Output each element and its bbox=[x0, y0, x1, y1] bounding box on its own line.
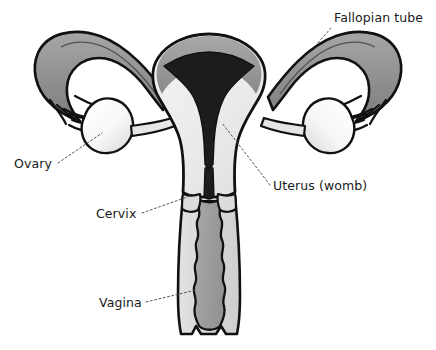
cervical-canal bbox=[204, 168, 214, 199]
ovary-right-body bbox=[303, 98, 354, 153]
ovarian-ligament-right-body bbox=[261, 118, 305, 136]
label-cervix: Cervix bbox=[96, 206, 136, 221]
label-vagina: Vagina bbox=[99, 295, 142, 310]
label-ovary: Ovary bbox=[14, 156, 52, 171]
ovarian-ligament-left-body bbox=[131, 118, 175, 136]
label-uterus-womb: Uterus (womb) bbox=[273, 178, 367, 193]
vaginal-canal bbox=[194, 200, 226, 330]
ovary-left-body bbox=[82, 98, 133, 153]
ovarian-ligament-left bbox=[131, 118, 175, 136]
ovarian-ligament-right bbox=[261, 118, 305, 136]
anatomy-diagram: Fallopian tube Ovary Uterus (womb) Cervi… bbox=[0, 0, 436, 350]
label-fallopian-tube: Fallopian tube bbox=[334, 10, 423, 25]
vagina bbox=[178, 196, 240, 334]
ovary-right bbox=[303, 98, 354, 153]
cervix-right-fornix bbox=[218, 194, 236, 212]
female-reproductive-system-illustration: Fallopian tube Ovary Uterus (womb) Cervi… bbox=[0, 0, 436, 350]
cervix-left-fornix bbox=[182, 194, 200, 212]
ovary-left bbox=[82, 98, 133, 153]
